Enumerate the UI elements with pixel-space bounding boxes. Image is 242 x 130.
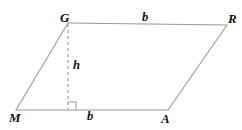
height-label: h (73, 59, 80, 72)
geometry-figure: G R M A b b h (0, 0, 242, 130)
base-label-bottom: b (87, 110, 93, 123)
right-angle-marker (68, 102, 76, 110)
vertex-label-g: G (60, 11, 69, 24)
vertex-label-a: A (161, 112, 170, 125)
base-label-top: b (142, 11, 148, 24)
side-mg (16, 23, 68, 110)
side-ra (168, 25, 227, 110)
vertex-label-r: R (228, 12, 237, 25)
parallelogram-diagram-svg (0, 0, 242, 130)
vertex-label-m: M (9, 111, 21, 124)
